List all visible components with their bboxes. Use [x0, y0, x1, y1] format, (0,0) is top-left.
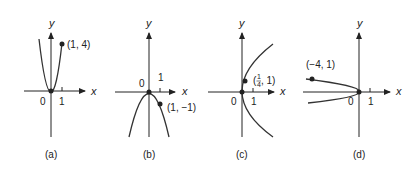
y-axis-label: y: [48, 17, 56, 29]
y-axis-label: y: [145, 17, 153, 29]
labeled-point: [243, 79, 248, 84]
tick-label: 1: [158, 72, 164, 83]
point-label: ( 1 4 , 1): [253, 73, 275, 88]
caption: (d): [353, 149, 365, 160]
origin-label: 0: [348, 96, 354, 107]
origin-label: 0: [40, 96, 46, 107]
caption: (c): [236, 149, 248, 160]
y-axis-label: y: [238, 17, 246, 29]
labeled-point: [158, 102, 163, 107]
origin-point: [49, 89, 54, 94]
origin-point: [357, 90, 362, 95]
parabola-curve: [242, 44, 273, 137]
panel-b: y x 0 1 (1, −1) (b): [115, 17, 196, 160]
parabola-figure: y x 0 1 (1, 4) (a) y x 0 1 (1, −1) (b) y…: [0, 0, 419, 171]
panel-a: y x 0 1 (1, 4) (a): [24, 17, 97, 160]
origin-point: [240, 90, 245, 95]
point-label: (1, 4): [67, 39, 90, 50]
point-label: (−4, 1): [306, 59, 335, 70]
origin-label: 0: [231, 96, 237, 107]
tick-label: 1: [251, 96, 257, 107]
tick-label: 1: [59, 96, 65, 107]
x-axis-label: x: [90, 85, 97, 97]
x-axis-label: x: [279, 85, 286, 97]
caption: (b): [143, 149, 155, 160]
panel-d: y x 0 1 (−4, 1) (d): [303, 17, 402, 160]
point-label-rest: , 1): [261, 75, 275, 86]
point-label: (1, −1): [167, 102, 196, 113]
caption: (a): [45, 149, 57, 160]
x-axis-label: x: [181, 85, 188, 97]
x-axis-label: x: [395, 85, 402, 97]
panel-c: y x 0 1 ( 1 4 , 1) (c): [208, 17, 286, 160]
y-axis-label: y: [356, 17, 364, 29]
labeled-point: [60, 42, 65, 47]
origin-label: 0: [139, 78, 145, 89]
tick-label: 1: [368, 96, 374, 107]
origin-point: [147, 90, 152, 95]
labeled-point: [310, 77, 315, 82]
